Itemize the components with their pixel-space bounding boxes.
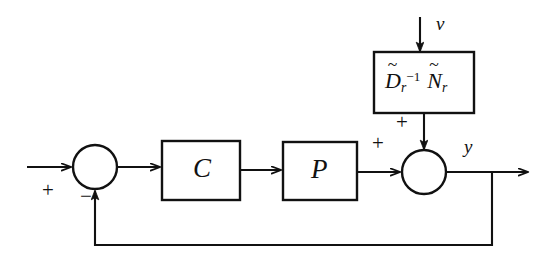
plant-block-label: P xyxy=(311,156,328,183)
diagram-canvas xyxy=(0,0,544,264)
reference-plus-sign: + xyxy=(42,180,54,201)
disturbance-input-label: v xyxy=(436,14,444,33)
d-tilde-accent: ~ xyxy=(388,56,398,74)
d-symbol: ~D xyxy=(385,70,401,92)
error-junction xyxy=(73,145,117,189)
noise-model-block-label: ~Dr−1~Nr xyxy=(385,70,447,95)
plant-output-plus-sign: + xyxy=(372,133,384,154)
n-tilde-accent: ~ xyxy=(429,56,439,74)
n-symbol: ~N xyxy=(427,70,442,92)
output-junction xyxy=(402,150,446,194)
output-signal-label: y xyxy=(464,137,472,156)
feedback-minus-sign: − xyxy=(80,186,92,207)
noise-plus-sign: + xyxy=(396,112,408,133)
block-diagram-figure: C P ~Dr−1~Nr v y + − + + xyxy=(0,0,544,264)
n-subscript: r xyxy=(442,80,447,95)
controller-block-label: C xyxy=(193,155,211,182)
d-superscript: −1 xyxy=(406,69,420,84)
